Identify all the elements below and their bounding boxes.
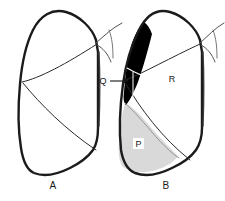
region-r-label: R — [169, 74, 176, 84]
region-p-label: P — [135, 139, 141, 149]
panel-a-posterior-border — [99, 52, 100, 126]
panel-b-posterior-border — [203, 52, 204, 126]
figure-container: A B — [0, 0, 225, 201]
lung-diagram-svg: A B — [0, 0, 225, 201]
panel-a-caption: A — [50, 180, 57, 191]
panel-b-caption: B — [163, 180, 170, 191]
region-q-label: Q — [99, 76, 106, 86]
